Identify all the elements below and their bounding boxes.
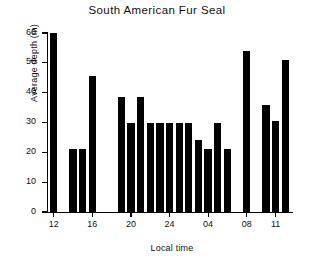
x-axis-label: Local time (0, 243, 314, 253)
bar (176, 123, 183, 213)
x-tick-label: 24 (165, 219, 175, 229)
y-tick-label: 40 (26, 86, 36, 96)
bar (282, 60, 289, 212)
chart-figure: South American Fur Seal Average depth (m… (0, 0, 314, 265)
y-tick-label: 10 (26, 176, 36, 186)
bar (79, 149, 86, 212)
x-tick-label: 16 (87, 219, 97, 229)
bar (195, 140, 202, 212)
bar (214, 123, 221, 213)
bar (127, 123, 134, 213)
y-tick (42, 62, 48, 63)
bar (50, 33, 57, 212)
y-tick (42, 211, 48, 212)
y-tick (42, 32, 48, 33)
bar (243, 51, 250, 212)
x-tick-label: 11 (271, 219, 280, 229)
x-tick (169, 212, 170, 217)
y-tick (42, 122, 48, 123)
bar (166, 123, 173, 213)
x-tick (246, 212, 247, 217)
x-tick (53, 212, 54, 217)
x-tick-label: 04 (203, 219, 213, 229)
x-tick (92, 212, 93, 217)
x-tick (208, 212, 209, 217)
x-tick-label: 08 (242, 219, 252, 229)
x-tick-label: 12 (49, 219, 59, 229)
bar (204, 149, 211, 212)
bar (185, 123, 192, 213)
y-tick-label: 50 (26, 56, 36, 66)
bar (118, 97, 125, 212)
y-tick-label: 20 (26, 146, 36, 156)
bar (272, 121, 279, 212)
bar (224, 149, 231, 212)
chart-title: South American Fur Seal (0, 4, 314, 16)
bar (147, 123, 154, 213)
y-tick (42, 182, 48, 183)
y-tick (42, 152, 48, 153)
bar (262, 105, 269, 212)
y-tick-label: 0 (31, 206, 36, 216)
bar (89, 76, 96, 212)
y-tick-label: 60 (26, 27, 36, 37)
bar (156, 123, 163, 213)
bar (137, 97, 144, 212)
y-tick-label: 30 (26, 116, 36, 126)
plot-area: 0102030405060 12162024040811 (48, 33, 293, 212)
bar (69, 149, 76, 212)
x-tick-label: 20 (126, 219, 136, 229)
x-tick (275, 212, 276, 217)
y-tick (42, 92, 48, 93)
x-tick (130, 212, 131, 217)
